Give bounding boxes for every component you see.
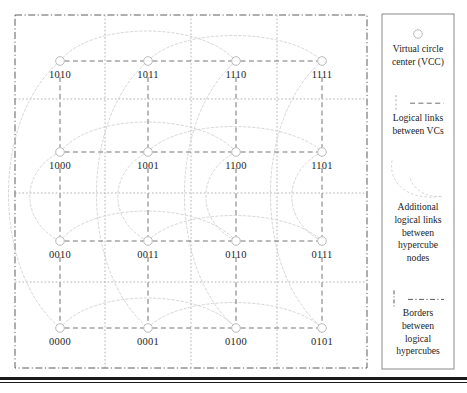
vcc-node-1111[interactable]: 1111 (312, 57, 333, 80)
vcc-node-label: 1001 (137, 160, 159, 171)
vcc-circle-marker[interactable] (144, 324, 153, 333)
vcc-node-0101[interactable]: 0101 (311, 324, 333, 347)
vcc-node-1000[interactable]: 1000 (49, 148, 71, 171)
additional-link-1110-0100 (184, 61, 236, 328)
vcc-node-label: 0110 (225, 249, 246, 260)
vcc-node-label: 1010 (49, 69, 71, 80)
vcc-node-label: 0011 (137, 249, 158, 260)
additional-link-1111-0101 (270, 61, 322, 328)
vcc-node-1011[interactable]: 1011 (137, 57, 158, 80)
vcc-node-0000[interactable]: 0000 (49, 324, 71, 347)
vcc-node-label: 1101 (311, 160, 332, 171)
legend-label-line: Virtual circle (393, 43, 443, 54)
bottom-rule-thick (0, 377, 467, 380)
vcc-circle-marker[interactable] (318, 57, 327, 66)
vcc-circle-marker[interactable] (144, 237, 153, 246)
vcc-circle-marker[interactable] (318, 324, 327, 333)
vcc-node-label: 0101 (311, 336, 333, 347)
vcc-node-1101[interactable]: 1101 (311, 148, 332, 171)
vcc-circle-marker[interactable] (318, 237, 327, 246)
vcc-node-0111[interactable]: 0111 (311, 237, 332, 260)
vcc-node-label: 0001 (137, 336, 159, 347)
vcc-circle-marker[interactable] (144, 57, 153, 66)
vcc-node-1100[interactable]: 1100 (225, 148, 246, 171)
legend-label-line: logical links (394, 214, 441, 225)
additional-link-1010-0000 (8, 61, 60, 328)
vcc-node-0001[interactable]: 0001 (137, 324, 159, 347)
vcc-node-label: 1111 (312, 69, 333, 80)
vcc-circle-marker[interactable] (56, 324, 65, 333)
vcc-circle-marker[interactable] (56, 148, 65, 157)
legend-label-line: between (402, 320, 434, 331)
vcc-node-1001[interactable]: 1001 (137, 148, 159, 171)
vcc-node-0100[interactable]: 0100 (225, 324, 247, 347)
hypercube-diagram-svg: 1010101111101111100010011100110100100011… (0, 0, 467, 393)
legend: Virtual circlecenter (VCC)Logical linksb… (382, 14, 454, 369)
legend-label-line: Borders (403, 307, 434, 318)
vcc-circle-marker[interactable] (232, 57, 241, 66)
vcc-circle-marker[interactable] (144, 148, 153, 157)
vcc-node-label: 1110 (225, 69, 246, 80)
additional-link-1011-0001 (96, 61, 148, 328)
legend-label-line: hypercubes (396, 345, 440, 356)
vcc-node-label: 0010 (49, 249, 71, 260)
figure-root: 1010101111101111100010011100110100100011… (0, 0, 467, 393)
bottom-rule-thin (0, 382, 467, 383)
vcc-node-0110[interactable]: 0110 (225, 237, 246, 260)
vcc-node-label: 0100 (225, 336, 247, 347)
legend-label-line: between (402, 227, 434, 238)
vcc-node-label: 1100 (225, 160, 246, 171)
vcc-node-label: 0000 (49, 336, 71, 347)
vcc-node-label: 1011 (137, 69, 158, 80)
legend-label-line: hypercube (398, 239, 438, 250)
vcc-node-1110[interactable]: 1110 (225, 57, 246, 80)
vcc-node-label: 0111 (311, 249, 332, 260)
vcc-circle-marker[interactable] (232, 237, 241, 246)
legend-label-line: Additional (397, 201, 438, 212)
vcc-node-1010[interactable]: 1010 (49, 57, 71, 80)
legend-circle-marker-icon (414, 30, 423, 39)
vcc-circle-marker[interactable] (56, 237, 65, 246)
vcc-node-0011[interactable]: 0011 (137, 237, 158, 260)
vcc-circle-marker[interactable] (232, 324, 241, 333)
legend-label-line: logical (405, 333, 431, 344)
vcc-node-0010[interactable]: 0010 (49, 237, 71, 260)
legend-label-line: Logical links (393, 112, 444, 123)
legend-label-line: between VCs (392, 125, 444, 136)
vcc-node-label: 1000 (49, 160, 71, 171)
legend-label-line: nodes (407, 252, 430, 263)
vcc-circle-marker[interactable] (232, 148, 241, 157)
vcc-circle-marker[interactable] (56, 57, 65, 66)
vcc-circle-marker[interactable] (318, 148, 327, 157)
legend-label-line: center (VCC) (392, 56, 444, 68)
